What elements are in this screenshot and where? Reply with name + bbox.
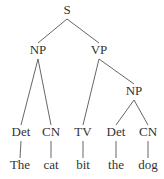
node-w3: bit — [76, 157, 90, 172]
edge-vp-tv — [83, 59, 99, 125]
edge-np2-det2 — [116, 100, 134, 125]
edge-np1-det1 — [21, 59, 38, 125]
node-cn2: CN — [139, 124, 158, 139]
edge-det1-w1 — [20, 141, 21, 158]
node-w4: the — [108, 157, 124, 172]
parse-tree: SNPVPNPDetCNTVDetCNThecatbitthedog — [0, 0, 164, 179]
node-w2: cat — [43, 157, 59, 172]
node-cn1: CN — [42, 124, 61, 139]
tree-nodes: SNPVPNPDetCNTVDetCNThecatbitthedog — [10, 2, 158, 172]
node-s: S — [63, 2, 70, 17]
edge-s-vp — [67, 19, 99, 43]
node-vp: VP — [91, 42, 108, 57]
node-det1: Det — [12, 124, 31, 139]
edge-s-np1 — [38, 19, 67, 43]
node-det2: Det — [107, 124, 126, 139]
node-w5: dog — [138, 157, 158, 172]
node-w1: The — [10, 157, 30, 172]
node-np2: NP — [126, 83, 143, 98]
edge-np2-cn2 — [134, 100, 148, 125]
edge-np1-cn1 — [38, 59, 51, 125]
edge-vp-np2 — [99, 59, 134, 84]
node-tv: TV — [74, 124, 92, 139]
node-np1: NP — [30, 42, 47, 57]
